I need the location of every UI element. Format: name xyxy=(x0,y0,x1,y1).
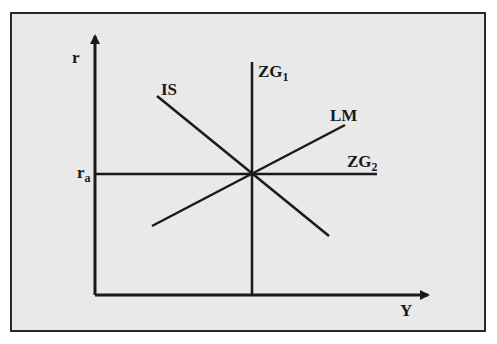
is-label: IS xyxy=(161,80,177,99)
zg1-label: ZG1 xyxy=(258,62,289,84)
x-axis-label: Y xyxy=(400,301,412,320)
is-curve xyxy=(157,96,329,236)
zg2-label: ZG2 xyxy=(347,152,378,174)
lm-label: LM xyxy=(330,106,357,125)
lm-curve xyxy=(152,125,345,226)
ra-label: ra xyxy=(77,163,91,185)
is-lm-diagram: r Y ra IS LM ZG1 ZG2 xyxy=(0,0,497,344)
y-axis-label: r xyxy=(72,48,80,67)
